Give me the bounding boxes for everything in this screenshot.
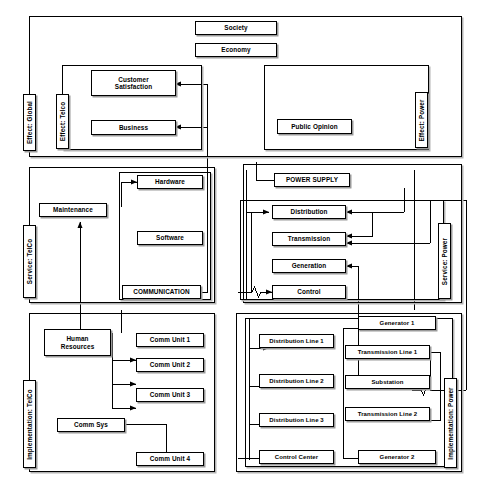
- node-distribution-line-2-label: Distribution Line 2: [269, 378, 324, 385]
- label-implementation-telco: Implementation: TelCo: [23, 380, 36, 468]
- node-business[interactable]: Business: [91, 120, 176, 135]
- node-comm-unit-4[interactable]: Comm Unit 4: [136, 452, 204, 466]
- label-effect-power: Effect: Power: [415, 92, 428, 148]
- node-hardware[interactable]: Hardware: [137, 175, 203, 189]
- node-distribution-line-1-label: Distribution Line 1: [269, 338, 324, 345]
- node-public-opinion[interactable]: Public Opinion: [277, 119, 352, 134]
- label-effect-global-text: Effect: Global: [26, 101, 33, 144]
- label-implementation-power: Implementation: Power: [444, 378, 457, 468]
- label-service-power-text: Service: Power: [441, 237, 448, 284]
- node-transmission-line-1-label: Transmission Line 1: [358, 349, 418, 356]
- node-distribution-label: Distribution: [290, 208, 327, 215]
- node-comm-unit-3[interactable]: Comm Unit 3: [136, 388, 204, 402]
- node-human-resources-label-2: Resources: [61, 343, 95, 350]
- node-maintenance[interactable]: Maintenance: [39, 203, 107, 217]
- label-service-power: Service: Power: [438, 223, 451, 299]
- node-human-resources-label-1: Human: [66, 335, 88, 342]
- node-comm-sys-label: Comm Sys: [74, 421, 108, 428]
- node-substation-label: Substation: [372, 379, 404, 386]
- node-maintenance-label: Maintenance: [53, 206, 93, 213]
- node-generator-1-label: Generator 1: [380, 320, 415, 327]
- node-distribution-line-3-label: Distribution Line 3: [269, 417, 324, 424]
- node-transmission-label: Transmission: [288, 235, 330, 242]
- node-comm-sys[interactable]: Comm Sys: [57, 418, 125, 432]
- group-effect-power: [264, 65, 429, 150]
- node-comm-unit-1[interactable]: Comm Unit 1: [136, 333, 204, 347]
- node-control-label: Control: [297, 288, 320, 295]
- node-software-label: Software: [156, 234, 184, 241]
- node-comm-unit-1-label: Comm Unit 1: [150, 336, 191, 343]
- label-effect-telco-text: Effect: Telco: [59, 102, 66, 141]
- node-generator-2-label: Generator 2: [380, 454, 415, 461]
- node-business-label: Business: [119, 124, 148, 131]
- node-economy[interactable]: Economy: [195, 43, 277, 57]
- node-distribution-line-2[interactable]: Distribution Line 2: [259, 374, 334, 388]
- node-customer-satisfaction-label-2: Satisfaction: [115, 83, 152, 90]
- node-transmission-line-1[interactable]: Transmission Line 1: [345, 345, 430, 359]
- label-effect-telco: Effect: Telco: [56, 94, 69, 149]
- node-comm-unit-4-label: Comm Unit 4: [150, 455, 191, 462]
- node-substation[interactable]: Substation: [345, 375, 430, 389]
- node-customer-satisfaction-label-1: Customer: [118, 76, 149, 83]
- node-transmission-line-2-label: Transmission Line 2: [358, 411, 418, 418]
- node-communication[interactable]: COMMUNICATION: [122, 285, 201, 299]
- node-generator-1[interactable]: Generator 1: [358, 316, 436, 330]
- node-power-supply[interactable]: POWER SUPPLY: [274, 173, 350, 187]
- node-society[interactable]: Society: [195, 21, 277, 35]
- node-customer-satisfaction[interactable]: Customer Satisfaction: [91, 70, 176, 96]
- node-control[interactable]: Control: [272, 285, 346, 299]
- node-economy-label: Economy: [221, 46, 250, 53]
- label-implementation-power-text: Implementation: Power: [447, 387, 454, 459]
- node-communication-label: COMMUNICATION: [133, 288, 190, 295]
- node-generation-label: Generation: [292, 262, 327, 269]
- node-distribution-line-1[interactable]: Distribution Line 1: [259, 334, 334, 348]
- node-comm-unit-2-label: Comm Unit 2: [150, 361, 191, 368]
- label-effect-power-text: Effect: Power: [418, 99, 425, 141]
- node-transmission-line-2[interactable]: Transmission Line 2: [345, 407, 430, 421]
- node-generator-2[interactable]: Generator 2: [358, 450, 436, 464]
- node-transmission[interactable]: Transmission: [272, 232, 346, 246]
- label-service-telco-text: Service: TelCo: [26, 239, 33, 284]
- label-effect-global: Effect: Global: [23, 94, 36, 151]
- node-society-label: Society: [224, 24, 247, 31]
- node-human-resources[interactable]: Human Resources: [44, 329, 111, 356]
- node-public-opinion-label: Public Opinion: [291, 123, 338, 130]
- node-software[interactable]: Software: [137, 231, 203, 245]
- node-control-center[interactable]: Control Center: [259, 450, 334, 464]
- node-hardware-label: Hardware: [155, 178, 185, 185]
- node-power-supply-label: POWER SUPPLY: [286, 176, 338, 183]
- diagram-canvas: Effect: Global Effect: Telco Effect: Pow…: [0, 0, 478, 485]
- node-comm-unit-3-label: Comm Unit 3: [150, 391, 191, 398]
- label-service-telco: Service: TelCo: [23, 225, 36, 298]
- node-distribution-line-3[interactable]: Distribution Line 3: [259, 413, 334, 427]
- label-implementation-telco-text: Implementation: TelCo: [26, 389, 33, 460]
- node-comm-unit-2[interactable]: Comm Unit 2: [136, 358, 204, 372]
- node-distribution[interactable]: Distribution: [272, 205, 346, 219]
- node-control-center-label: Control Center: [275, 454, 318, 461]
- node-generation[interactable]: Generation: [272, 259, 346, 273]
